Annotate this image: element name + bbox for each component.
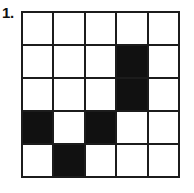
puzzle-figure: 1. bbox=[0, 0, 194, 193]
grid-cell-r2-c4 bbox=[117, 46, 146, 77]
grid-cell-r1-c5 bbox=[149, 13, 178, 44]
grid-cell-r1-c3 bbox=[86, 13, 115, 44]
grid-cell-r4-c1 bbox=[23, 112, 52, 143]
grid-cell-r4-c4 bbox=[117, 112, 146, 143]
grid-cell-r5-c2 bbox=[54, 145, 83, 176]
grid-cell-r1-c2 bbox=[54, 13, 83, 44]
pattern-grid bbox=[21, 11, 180, 178]
grid-cell-r3-c2 bbox=[54, 79, 83, 110]
item-number-label: 1. bbox=[2, 5, 14, 20]
grid-cell-r4-c5 bbox=[149, 112, 178, 143]
grid-cell-r2-c5 bbox=[149, 46, 178, 77]
grid-cell-r1-c4 bbox=[117, 13, 146, 44]
grid-cell-r4-c2 bbox=[54, 112, 83, 143]
grid-cell-r3-c3 bbox=[86, 79, 115, 110]
grid-cell-r2-c2 bbox=[54, 46, 83, 77]
grid-cell-r5-c3 bbox=[86, 145, 115, 176]
grid-cell-r4-c3 bbox=[86, 112, 115, 143]
grid-cell-r5-c4 bbox=[117, 145, 146, 176]
grid-cell-r3-c5 bbox=[149, 79, 178, 110]
grid-cell-r5-c5 bbox=[149, 145, 178, 176]
grid-cell-r2-c1 bbox=[23, 46, 52, 77]
grid-cell-r2-c3 bbox=[86, 46, 115, 77]
grid-cell-r3-c1 bbox=[23, 79, 52, 110]
grid-cell-r5-c1 bbox=[23, 145, 52, 176]
grid-cell-r3-c4 bbox=[117, 79, 146, 110]
grid-cell-r1-c1 bbox=[23, 13, 52, 44]
